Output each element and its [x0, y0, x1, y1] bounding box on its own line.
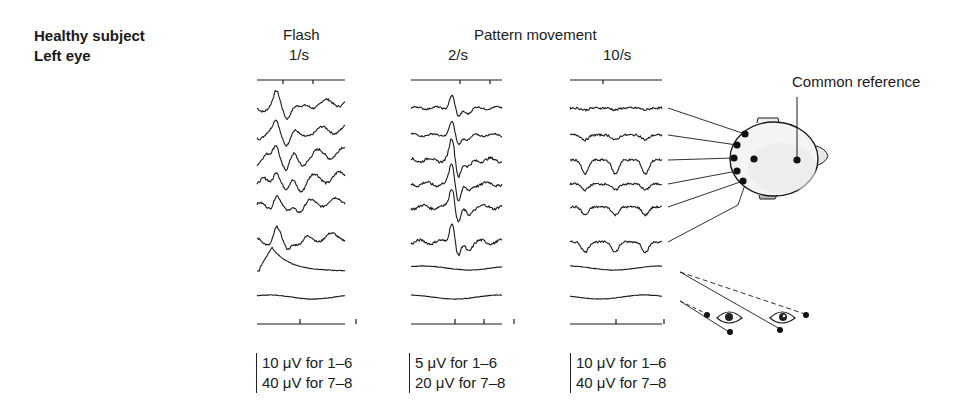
- electrode: [750, 155, 757, 162]
- trace-ch1-col1: [257, 91, 345, 120]
- trace-ch6-col3: [570, 241, 662, 253]
- trace-ch3-col1: [257, 146, 345, 171]
- electrode: [704, 312, 710, 318]
- lead-wire: [668, 135, 737, 145]
- lead-wire: [668, 171, 737, 184]
- trace-ch1-col2: [411, 95, 502, 116]
- electrode: [733, 167, 740, 174]
- trace-ch2-col3: [570, 134, 662, 141]
- head-illustration: [730, 97, 828, 199]
- time-axes: [257, 80, 664, 324]
- eye-electrodes: [680, 272, 809, 335]
- trace-ch7-col3: [570, 266, 662, 270]
- trace-ch8-col1: [257, 295, 345, 299]
- trace-ch8-col2: [411, 295, 502, 299]
- trace-ch2-col1: [257, 120, 345, 146]
- trace-ch3-col3: [570, 159, 662, 175]
- electrode: [733, 141, 740, 148]
- lead-wire: [668, 108, 745, 134]
- electrode: [739, 177, 746, 184]
- trace-ch1-col3: [570, 107, 662, 111]
- trace-ch5-col1: [257, 196, 345, 213]
- trace-ch8-col3: [570, 295, 662, 299]
- trace-ch6-col2: [411, 224, 502, 256]
- electrode: [777, 327, 783, 333]
- trace-ch4-col3: [570, 183, 662, 191]
- trace-ch7-col2: [411, 266, 502, 270]
- vep-diagram: [0, 0, 972, 414]
- electrode: [727, 329, 733, 335]
- trace-ch4-col1: [257, 171, 345, 192]
- electrode: [803, 312, 809, 318]
- lead-wire: [668, 181, 743, 207]
- trace-ch5-col3: [570, 206, 662, 216]
- trace-ch6-col1: [257, 226, 345, 250]
- lead-wire: [668, 158, 734, 160]
- electrode: [741, 130, 748, 137]
- electrode: [730, 154, 737, 161]
- traces: [257, 91, 662, 300]
- common-reference-electrode: [793, 156, 800, 163]
- trace-ch3-col2: [411, 139, 502, 177]
- trace-ch2-col2: [411, 122, 502, 145]
- trace-ch7-col1: [257, 247, 345, 271]
